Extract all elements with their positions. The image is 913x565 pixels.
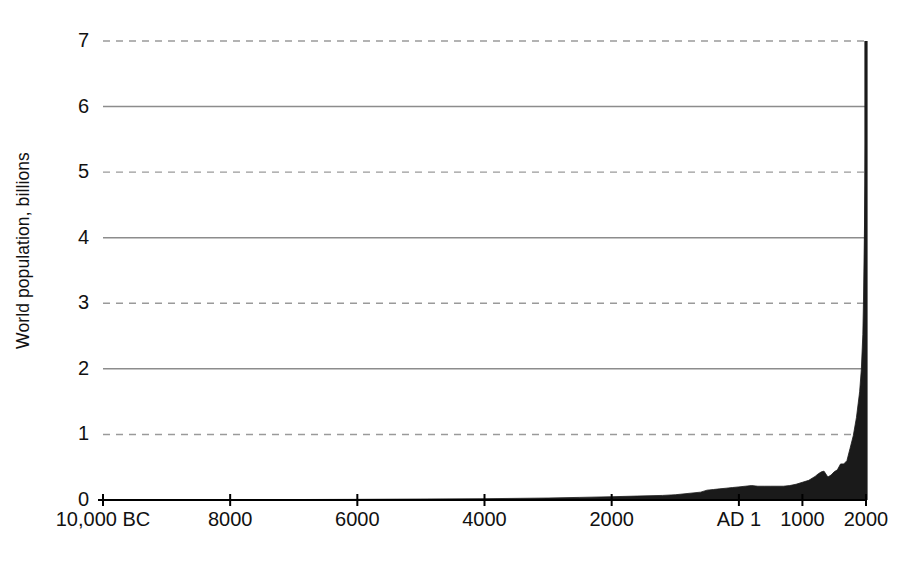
area-path xyxy=(103,41,866,500)
world-population-chart: World population, billions 01234567 10,0… xyxy=(0,0,913,565)
area-series-world-population xyxy=(103,41,866,500)
gridlines xyxy=(103,41,866,434)
plot-area xyxy=(0,0,913,565)
